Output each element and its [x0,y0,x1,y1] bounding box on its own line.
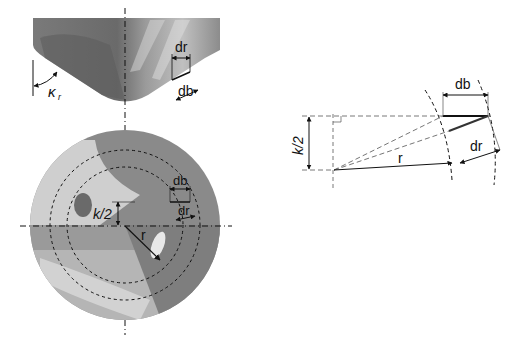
inner-arc [425,90,452,180]
diagram-canvas: κ r dr db k/2 r [0,0,519,338]
tool-tip-view: κ r dr db [33,18,220,102]
kappa-r-label: κ [48,83,57,100]
r-label-geometry: r [398,150,403,166]
dr-label-top: dr [175,39,188,55]
k-half-label-face: k/2 [93,206,112,222]
db-label-face: db [173,173,187,188]
geometry-view: k/2 r db dr [290,76,500,190]
k-half-label-geometry: k/2 [290,136,306,155]
face-view: k/2 r db dr [20,130,232,330]
r-label-face: r [141,227,146,243]
dark-spot [74,193,92,217]
outer-arc [478,80,495,185]
dr-label-geometry: dr [470,138,483,154]
dr-label-face: dr [178,203,190,218]
svg-text:r: r [58,92,62,102]
db-label-top: db [178,83,194,99]
db-label-geometry: db [455,76,471,92]
